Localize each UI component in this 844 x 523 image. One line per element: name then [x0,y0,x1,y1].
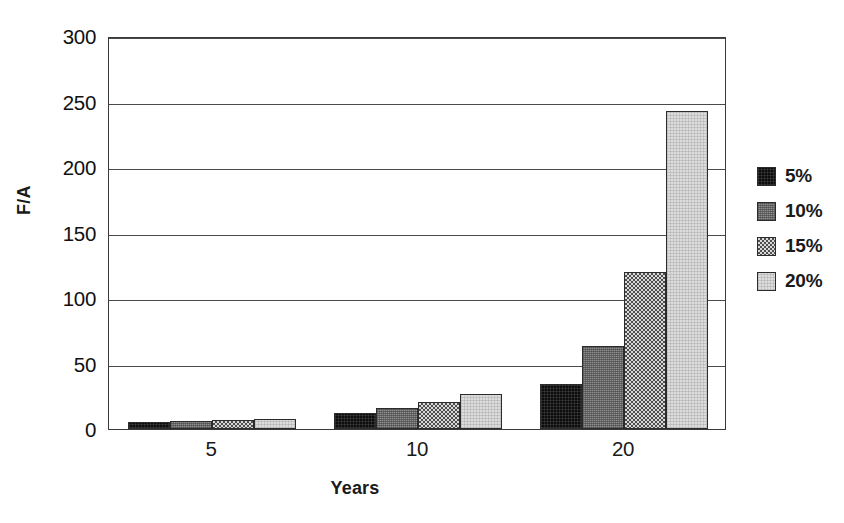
legend-item: 10% [757,198,844,224]
bar [128,422,170,429]
legend-swatch [757,237,776,256]
bar [254,419,296,429]
y-axis-label: F/A [14,185,35,215]
bar [212,420,254,429]
bar [540,384,582,429]
bar [666,111,708,429]
legend: 5%10%15%20% [757,163,844,303]
bar [418,402,460,429]
x-axis-tick-label: 20 [612,437,634,461]
y-axis-tick-label: 200 [36,156,96,180]
gridline [109,104,725,105]
gridline [109,235,725,236]
y-axis-tick-label: 50 [36,353,96,377]
bar [334,413,376,430]
plot-area [108,37,726,430]
bar [170,421,212,429]
bar [582,346,624,429]
bar [624,272,666,429]
legend-label: 15% [785,235,822,257]
y-axis-tick-label: 300 [36,25,96,49]
legend-swatch [757,272,776,291]
y-axis-tick-label: 100 [36,287,96,311]
x-axis-tick-label: 10 [406,437,428,461]
gridline [109,169,725,170]
legend-item: 15% [757,233,844,259]
legend-label: 20% [785,270,822,292]
gridline [109,38,725,39]
legend-swatch [757,202,776,221]
legend-swatch [757,167,776,186]
legend-label: 10% [785,200,822,222]
legend-label: 5% [785,165,812,187]
bar [460,394,502,429]
legend-item: 20% [757,268,844,294]
bar-chart-figure: F/A 050100150200250300 51020 Years 5%10%… [0,0,844,523]
x-axis-label: Years [0,478,844,499]
x-axis-tick-label: 5 [205,437,216,461]
y-axis-tick-label: 250 [36,91,96,115]
y-axis-tick-label: 150 [36,222,96,246]
y-axis-tick-label: 0 [36,418,96,442]
x-axis-label-text: Years [330,478,379,498]
bar [376,408,418,429]
legend-item: 5% [757,163,844,189]
